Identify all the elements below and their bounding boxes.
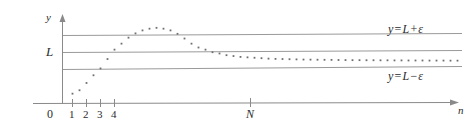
x-axis	[33, 100, 459, 106]
sequence-point	[352, 59, 354, 61]
sequence-point	[401, 60, 403, 62]
sequence-point	[310, 59, 312, 61]
sequence-point	[373, 59, 375, 61]
sequence-point	[275, 58, 277, 60]
y-axis	[60, 14, 66, 104]
sequence-point	[212, 51, 214, 53]
sequence-point	[142, 30, 144, 32]
x-axis-ticks	[73, 98, 251, 107]
sequence-point	[436, 60, 438, 62]
upper-band-lhs: y	[388, 22, 394, 36]
limit-label: L	[46, 45, 53, 58]
lower-band-equals: =	[394, 69, 403, 83]
lower-band-operator: −	[409, 69, 418, 83]
sequence-point	[345, 59, 347, 61]
convergence-figure: y L 0 1 2 3 4 N n y=L+ε y=L−ε	[0, 0, 471, 130]
sequence-point	[72, 93, 74, 95]
y-axis-label: y	[46, 12, 51, 23]
x-axis-line	[33, 103, 452, 104]
sequence-point	[163, 28, 165, 30]
lower-band-lhs: y	[388, 69, 394, 83]
sequence-point	[443, 60, 445, 62]
sequence-point	[149, 28, 151, 30]
sequence-point	[198, 47, 200, 49]
sequence-point	[121, 43, 123, 45]
sequence-point	[233, 55, 235, 57]
x-axis-label: n	[458, 105, 464, 116]
sequence-point	[387, 59, 389, 61]
sequence-point	[191, 43, 193, 45]
sequence-point	[184, 38, 186, 40]
sequence-point	[331, 59, 333, 61]
sequence-point	[289, 58, 291, 60]
sequence-point	[450, 60, 452, 62]
sequence-point	[268, 58, 270, 60]
y-axis-arrow-icon	[60, 14, 66, 22]
sequence-point	[79, 89, 81, 91]
upper-band-label: y=L+ε	[388, 23, 423, 35]
sequence-point	[324, 59, 326, 61]
sequence-point	[205, 49, 207, 51]
sequence-point	[128, 37, 130, 39]
sequence-point	[177, 33, 179, 35]
sequence-point	[429, 60, 431, 62]
sequence-point	[135, 32, 137, 34]
sequence-point	[415, 60, 417, 62]
upper-band-equals: =	[394, 22, 403, 36]
sequence-point	[86, 82, 88, 84]
sequence-point	[226, 54, 228, 56]
sequence-point	[338, 59, 340, 61]
upper-band-operator: +	[409, 22, 418, 36]
sequence-point	[457, 60, 459, 62]
sequence-point	[366, 59, 368, 61]
n-threshold-label: N	[246, 108, 254, 120]
sequence-point	[408, 60, 410, 62]
sequence-point	[170, 30, 172, 32]
x-tick-label-2: 2	[83, 109, 89, 120]
x-tick-label-4: 4	[111, 109, 117, 120]
sequence-points	[72, 27, 459, 95]
upper-band-epsilon: ε	[418, 22, 423, 36]
lower-band-epsilon: ε	[418, 69, 423, 83]
sequence-point	[394, 60, 396, 62]
sequence-point	[380, 59, 382, 61]
sequence-point	[247, 56, 249, 58]
sequence-point	[261, 57, 263, 59]
sequence-point	[219, 53, 221, 55]
sequence-point	[282, 58, 284, 60]
lower-band-label: y=L−ε	[388, 70, 423, 82]
sequence-point	[114, 49, 116, 51]
epsilon-band-lines	[62, 34, 462, 70]
x-tick-label-1: 1	[69, 109, 75, 120]
sequence-point	[296, 58, 298, 60]
sequence-point	[422, 60, 424, 62]
sequence-point	[240, 56, 242, 58]
sequence-point	[107, 58, 109, 60]
sequence-point	[100, 68, 102, 70]
sequence-point	[93, 74, 95, 76]
sequence-point	[156, 27, 158, 29]
origin-label: 0	[47, 108, 53, 120]
sequence-point	[303, 59, 305, 61]
sequence-point	[359, 59, 361, 61]
x-tick-label-3: 3	[97, 109, 103, 120]
sequence-point	[317, 59, 319, 61]
sequence-point	[254, 57, 256, 59]
limit-line	[62, 51, 462, 53]
